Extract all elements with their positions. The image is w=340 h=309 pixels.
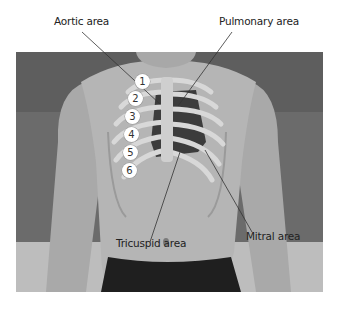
mitral-area-label: Mitral area <box>246 230 300 242</box>
intercostal-marker-1: 1 <box>135 74 150 89</box>
tricuspid-pointer-line <box>150 152 180 242</box>
intercostal-marker-5: 5 <box>123 145 138 160</box>
tricuspid-area-label: Tricuspid area <box>116 237 186 249</box>
aortic-pointer-line <box>82 32 160 104</box>
intercostal-marker-4: 4 <box>124 127 139 142</box>
mitral-pointer-line <box>205 150 252 232</box>
intercostal-marker-2: 2 <box>128 91 143 106</box>
pulmonary-area-label: Pulmonary area <box>219 15 299 27</box>
pointer-lines <box>0 0 340 309</box>
pulmonary-pointer-line <box>178 32 232 106</box>
intercostal-marker-3: 3 <box>125 109 140 124</box>
intercostal-marker-6: 6 <box>122 163 137 178</box>
aortic-area-label: Aortic area <box>54 15 109 27</box>
